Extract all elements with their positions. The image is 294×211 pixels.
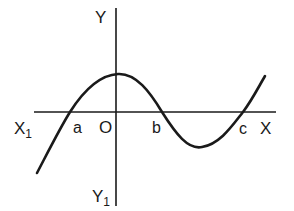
root-b-label: b	[152, 119, 161, 136]
origin-label: O	[99, 118, 112, 137]
cubic-curve	[37, 74, 265, 173]
x-axis-negative-subscript: 1	[25, 127, 32, 141]
y-axis-negative-label: Y1	[92, 187, 110, 209]
root-c-label: c	[239, 120, 247, 137]
y-axis-negative-subscript: 1	[103, 195, 110, 209]
y-axis-positive-label: Y	[95, 8, 106, 27]
x-axis-positive-label: X	[260, 119, 271, 138]
x-axis-negative-label: X1	[14, 119, 32, 141]
root-a-label: a	[73, 119, 82, 136]
cubic-graph-diagram: Y X1 a O b c X Y1	[0, 0, 294, 211]
